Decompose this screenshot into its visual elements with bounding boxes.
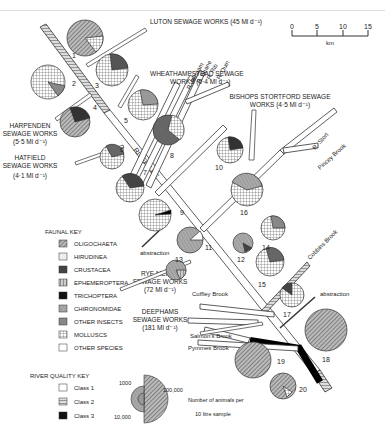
site-7 [116, 173, 144, 202]
svg-text:15: 15 [364, 23, 372, 30]
svg-text:10: 10 [339, 23, 347, 30]
site-14 [261, 216, 285, 240]
svg-text:4: 4 [93, 104, 97, 111]
site-12 [233, 233, 253, 253]
svg-text:OTHER SPECIES: OTHER SPECIES [74, 345, 123, 351]
svg-text:1000: 1000 [119, 380, 131, 386]
svg-text:EPHEMEROPTERA: EPHEMEROPTERA [74, 280, 128, 286]
site-1 [67, 20, 103, 56]
svg-text:100,000: 100,000 [163, 387, 183, 393]
svg-text:5: 5 [315, 23, 319, 30]
label-cuffley: Cuffley Brook [192, 291, 229, 297]
svg-text:SEWAGE WORKS: SEWAGE WORKS [3, 162, 58, 169]
site-8 [153, 115, 184, 145]
river-map: 0 5 10 15 km RIVER LEE R. Mimram R. Bean… [0, 0, 385, 433]
svg-text:HATFIELD: HATFIELD [15, 154, 46, 161]
svg-text:12: 12 [237, 256, 245, 263]
svg-text:km: km [326, 40, 334, 46]
svg-text:Class 3: Class 3 [74, 413, 95, 419]
site-2 [31, 65, 65, 99]
svg-text:WORKS (4·5 Ml d⁻¹): WORKS (4·5 Ml d⁻¹) [250, 101, 310, 109]
size-key: 1000 100,000 10,000 Number of animals pe… [114, 375, 244, 423]
scale-bar: 0 5 10 15 km [290, 23, 372, 46]
svg-text:2: 2 [72, 80, 76, 87]
svg-text:Class 1: Class 1 [74, 385, 95, 391]
site-5 [128, 90, 158, 120]
svg-text:CHIRONOMIDAE: CHIRONOMIDAE [74, 306, 121, 312]
label-cobbins: Cobbins Brook [306, 228, 339, 261]
svg-text:20: 20 [299, 386, 307, 393]
svg-text:Class 2: Class 2 [74, 399, 95, 405]
svg-text:CRUSTACEA: CRUSTACEA [74, 267, 111, 273]
svg-text:RIVER QUALITY KEY: RIVER QUALITY KEY [30, 373, 89, 379]
site-3 [96, 54, 128, 86]
label-pymmes: Pymmes Brook [188, 345, 230, 351]
svg-text:14: 14 [262, 244, 270, 251]
site-13 [166, 260, 186, 280]
svg-text:Number of animals per: Number of animals per [188, 397, 244, 403]
label-salmons: Salmon's Brook [190, 333, 233, 339]
site-4 [60, 107, 90, 137]
site-19 [235, 342, 271, 378]
svg-text:3: 3 [95, 82, 99, 89]
svg-text:(4·1 Ml d⁻¹): (4·1 Ml d⁻¹) [13, 172, 47, 180]
svg-text:DEEPHAMS: DEEPHAMS [142, 308, 179, 315]
svg-text:MOLLUSCS: MOLLUSCS [74, 332, 107, 338]
svg-text:LUTON SEWAGE WORKS (45 Ml d⁻¹): LUTON SEWAGE WORKS (45 Ml d⁻¹) [150, 18, 262, 26]
svg-text:FAUNAL KEY: FAUNAL KEY [45, 229, 82, 235]
label-stort: R. Stort [311, 131, 329, 150]
svg-text:SEWAGE WORKS: SEWAGE WORKS [133, 316, 188, 323]
svg-text:10,000: 10,000 [114, 414, 131, 420]
svg-text:13: 13 [175, 256, 183, 263]
svg-text:(72 Ml d⁻¹): (72 Ml d⁻¹) [144, 286, 176, 294]
site-9 [139, 199, 171, 231]
svg-text:(5·5 Ml d⁻¹): (5·5 Ml d⁻¹) [13, 138, 47, 146]
svg-text:11: 11 [205, 244, 212, 251]
svg-text:(181 Ml d⁻¹): (181 Ml d⁻¹) [142, 324, 177, 332]
site-18 [305, 309, 347, 351]
sewage-works-labels: LUTON SEWAGE WORKS (45 Ml d⁻¹) WHEATHAMP… [3, 18, 331, 332]
site-10 [217, 137, 243, 163]
svg-text:5: 5 [124, 117, 128, 124]
svg-text:10 litre sample: 10 litre sample [195, 411, 231, 417]
svg-text:8: 8 [170, 152, 174, 159]
svg-text:15: 15 [258, 281, 266, 288]
svg-text:10: 10 [215, 164, 223, 171]
label-pincey: Pincey Brook [317, 142, 348, 171]
svg-text:abstraction: abstraction [320, 291, 349, 297]
svg-text:TRICHOPTERA: TRICHOPTERA [74, 293, 117, 299]
site-16 [231, 173, 263, 206]
svg-text:WORKS (0·4 Ml d⁻¹): WORKS (0·4 Ml d⁻¹) [170, 78, 230, 86]
svg-text:16: 16 [240, 209, 248, 216]
svg-text:17: 17 [283, 311, 291, 318]
site-15 [256, 247, 284, 276]
svg-text:19: 19 [277, 358, 285, 365]
svg-text:HARPENDEN: HARPENDEN [10, 122, 51, 129]
svg-text:7: 7 [143, 169, 147, 176]
svg-text:SEWAGE WORKS: SEWAGE WORKS [3, 130, 58, 137]
svg-text:HIRUDINEA: HIRUDINEA [74, 254, 107, 260]
svg-text:0: 0 [290, 23, 294, 30]
site-20 [270, 373, 296, 399]
site-11 [177, 227, 203, 253]
svg-text:9: 9 [180, 209, 184, 216]
site-17 [280, 283, 304, 307]
svg-text:6: 6 [120, 146, 124, 153]
svg-text:1: 1 [72, 52, 76, 59]
svg-text:BISHOPS STORTFORD SEWAGE: BISHOPS STORTFORD SEWAGE [229, 93, 331, 100]
river-quality-key: RIVER QUALITY KEY Class 1 Class 2 Class … [30, 373, 95, 419]
svg-text:WHEATHAMPSTEAD SEWAGE: WHEATHAMPSTEAD SEWAGE [150, 70, 244, 77]
svg-text:OTHER INSECTS: OTHER INSECTS [74, 319, 123, 325]
svg-text:OLIGOCHAETA: OLIGOCHAETA [74, 241, 117, 247]
faunal-key: FAUNAL KEY OLIGOCHAETA HIRUDINEA CRUSTAC… [45, 229, 128, 351]
svg-text:18: 18 [322, 356, 330, 363]
svg-text:abstraction: abstraction [140, 250, 169, 256]
